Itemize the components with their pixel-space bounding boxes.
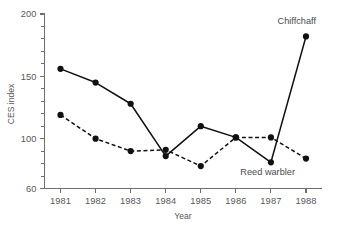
x-tick-label: 1982 — [85, 196, 106, 206]
y-axis-title: CES index — [6, 83, 16, 124]
x-tick-label: 1988 — [295, 196, 316, 206]
series-line-chiffchaff — [61, 36, 307, 162]
series-annotation-chiffchaff: Chiffchaff — [278, 16, 317, 26]
series-lines — [61, 36, 307, 166]
y-tick-label: 150 — [21, 72, 37, 82]
data-point-reed-warbler-1982 — [92, 136, 98, 142]
x-axis-tick-labels: 19811982198319841985198619871988 — [50, 196, 317, 206]
data-point-reed-warbler-1984 — [163, 147, 169, 153]
x-tick-label: 1987 — [260, 196, 281, 206]
x-axis-ticks — [61, 189, 307, 194]
y-tick-label: 100 — [21, 134, 37, 144]
data-point-chiffchaff-1981 — [57, 66, 63, 72]
x-tick-label: 1985 — [190, 196, 211, 206]
x-tick-label: 1983 — [120, 196, 141, 206]
data-point-reed-warbler-1985 — [198, 163, 204, 169]
data-point-reed-warbler-1988 — [303, 155, 309, 161]
y-tick-label: 200 — [21, 9, 37, 19]
series-markers — [57, 33, 309, 169]
data-point-chiffchaff-1988 — [303, 33, 309, 39]
data-point-reed-warbler-1986 — [233, 134, 239, 140]
data-point-chiffchaff-1982 — [92, 79, 98, 85]
x-tick-label: 1984 — [155, 196, 176, 206]
data-point-chiffchaff-1985 — [198, 123, 204, 129]
data-point-reed-warbler-1981 — [57, 112, 63, 118]
data-point-chiffchaff-1984 — [163, 153, 169, 159]
data-point-chiffchaff-1983 — [128, 101, 134, 107]
data-point-chiffchaff-1987 — [268, 159, 274, 165]
ces-index-line-chart: 60100150200 1981198219831984198519861987… — [0, 0, 340, 228]
chart-page: 60100150200 1981198219831984198519861987… — [0, 0, 340, 228]
series-annotation-reed-warbler: Reed warbler — [240, 167, 295, 177]
y-axis-ticks — [40, 14, 45, 189]
data-point-reed-warbler-1983 — [128, 148, 134, 154]
y-tick-label: 60 — [26, 184, 37, 194]
axis-lines — [45, 14, 323, 189]
x-tick-label: 1981 — [50, 196, 71, 206]
x-axis-title: Year — [174, 211, 192, 221]
x-tick-label: 1986 — [225, 196, 246, 206]
data-point-reed-warbler-1987 — [268, 134, 274, 140]
y-axis-tick-labels: 60100150200 — [21, 9, 37, 194]
